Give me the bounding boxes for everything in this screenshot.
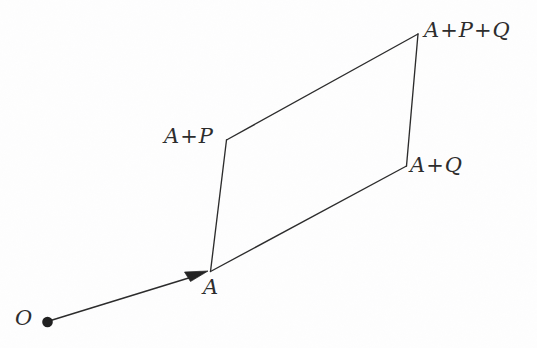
label-ap-term1: P (199, 124, 213, 148)
figure-canvas: A+P+Q A+P A+Q A O (0, 0, 537, 348)
label-apq-term1: P (459, 18, 473, 42)
vector-o-to-a-shaft (49, 275, 200, 322)
label-a: A (203, 277, 218, 298)
label-aq-base: A (410, 153, 425, 177)
label-ap-op1: + (179, 124, 199, 148)
label-a-plus-p-plus-q: A+P+Q (424, 20, 510, 41)
label-aq-term1: Q (445, 153, 462, 177)
label-apq-base: A (424, 18, 439, 42)
edge-a-to-a-plus-p (211, 140, 227, 272)
label-ap-base: A (164, 124, 179, 148)
label-aq-op1: + (425, 153, 445, 177)
label-apq-op2: + (473, 18, 493, 42)
edge-a-plus-q-to-a (211, 166, 407, 272)
label-a-plus-p: A+P (164, 126, 213, 147)
label-origin: O (15, 308, 32, 329)
label-apq-op1: + (439, 18, 459, 42)
label-apq-term2: Q (493, 18, 510, 42)
edge-a-plus-p-plus-q-to-a-plus-q (407, 34, 419, 166)
edge-a-plus-p-to-a-plus-p-plus-q (227, 34, 419, 140)
label-a-plus-q: A+Q (410, 155, 462, 176)
origin-dot (42, 317, 53, 328)
